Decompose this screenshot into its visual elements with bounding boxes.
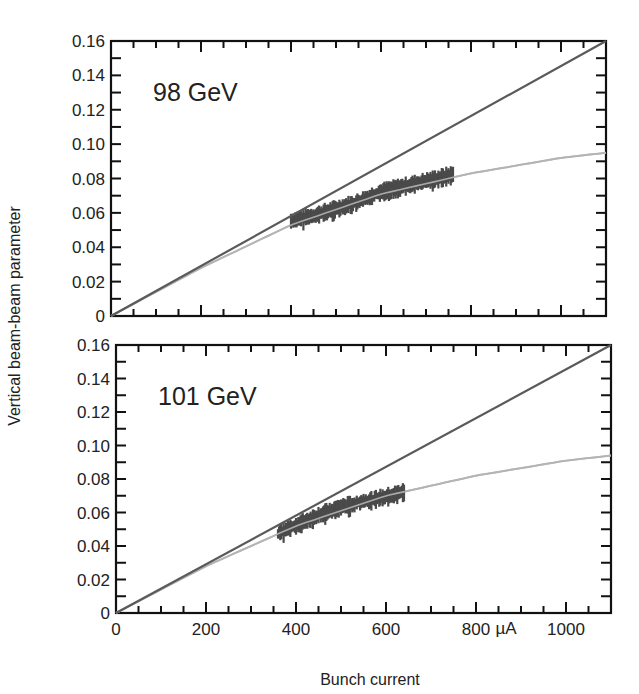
y-tick-label: 0 <box>96 307 105 326</box>
y-tick-label: 0.06 <box>72 204 105 223</box>
panel-energy-label: 98 GeV <box>153 78 238 106</box>
y-tick-label: 0.08 <box>77 470 110 489</box>
y-axis-title: Vertical beam-beam parameter <box>6 206 23 426</box>
fit-curve <box>111 153 606 316</box>
y-tick-label: 0.02 <box>72 273 105 292</box>
x-tick-label: 400 <box>282 620 310 639</box>
y-tick-label: 0.02 <box>77 571 110 590</box>
x-tick-label: 1000 <box>547 620 585 639</box>
y-tick-label: 0.16 <box>77 336 110 355</box>
y-tick-label: 0.06 <box>77 504 110 523</box>
y-tick-label: 0.16 <box>72 32 105 51</box>
y-tick-label: 0.12 <box>72 101 105 120</box>
y-tick-label: 0.14 <box>77 370 110 389</box>
y-tick-label: 0.04 <box>72 238 105 257</box>
y-tick-label: 0.08 <box>72 170 105 189</box>
beam-beam-parameter-chart: 00.020.040.060.080.100.120.140.1698 GeV … <box>0 0 639 694</box>
measured-data-band <box>291 166 453 230</box>
x-tick-label: 600 <box>372 620 400 639</box>
y-tick-label: 0.10 <box>77 437 110 456</box>
x-axis-title: Bunch current <box>320 671 420 688</box>
x-tick-label: 800 <box>462 620 490 639</box>
y-tick-label: 0 <box>101 604 110 623</box>
y-tick-label: 0.12 <box>77 403 110 422</box>
panel-98-gev: 00.020.040.060.080.100.120.140.1698 GeV <box>72 32 606 326</box>
y-tick-label: 0.04 <box>77 537 110 556</box>
y-tick-label: 0.10 <box>72 135 105 154</box>
y-tick-label: 0.14 <box>72 66 105 85</box>
panel-101-gev: 00.020.040.060.080.100.120.140.160200400… <box>77 336 611 639</box>
x-tick-label: 200 <box>192 620 220 639</box>
panel-energy-label: 101 GeV <box>158 382 257 410</box>
x-axis-unit: µA <box>495 619 517 638</box>
x-tick-label: 0 <box>111 620 120 639</box>
